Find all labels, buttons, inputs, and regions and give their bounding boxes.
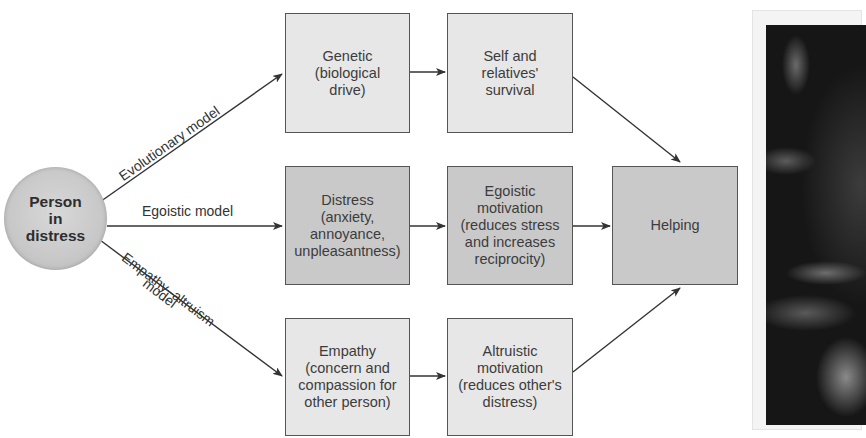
person-in-distress-node: Person in distress xyxy=(4,167,107,270)
helping-node: Helping xyxy=(612,166,738,285)
arrow-altruistic-to-helping xyxy=(573,288,680,372)
distress-node: Distress (anxiety, annoyance, unpleasant… xyxy=(285,166,410,285)
egoistic-motivation-node: Egoistic motivation (reduces stress and … xyxy=(447,166,573,285)
altruistic-motivation-node: Altruistic motivation (reduces other's d… xyxy=(447,318,573,436)
egoistic-model-label: Egoistic model xyxy=(142,203,233,219)
survival-node: Self and relatives' survival xyxy=(447,13,573,133)
arrow-evolutionary xyxy=(97,74,282,204)
empathy-node: Empathy (concern and compassion for othe… xyxy=(285,318,410,436)
arrow-survival-to-helping xyxy=(573,77,680,162)
photo-image xyxy=(766,25,866,425)
genetic-node: Genetic (biological drive) xyxy=(285,13,410,133)
